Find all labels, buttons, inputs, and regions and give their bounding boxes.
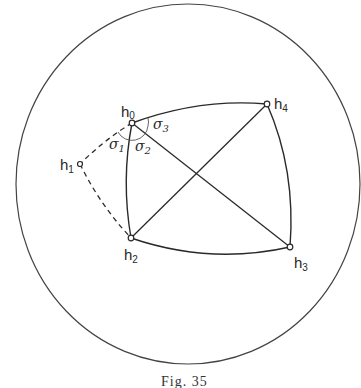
label-sigma2: σ2 <box>135 138 151 156</box>
edge-h1-h2-dashed <box>80 164 131 238</box>
angle-arc-h0-upper <box>148 118 149 126</box>
diagonal-h2-h4 <box>131 104 267 238</box>
vertex-h3 <box>287 244 293 250</box>
label-h0: h0 <box>121 103 135 121</box>
label-h2: h2 <box>124 246 138 265</box>
label-h4: h4 <box>274 95 288 114</box>
label-sigma3: σ3 <box>153 116 169 134</box>
label-h1: h1 <box>60 156 74 175</box>
vertex-h0 <box>129 120 135 126</box>
boundary-circle <box>16 4 360 364</box>
figure-caption: Fig. 35 <box>161 374 208 388</box>
vertex-h1 <box>78 162 83 167</box>
label-sigma1: σ1 <box>109 136 125 154</box>
label-h3: h3 <box>294 254 308 273</box>
hyperbolic-diagram: h0 h1 h2 h3 h4 σ1 σ2 σ3 Fig. 35 <box>0 0 361 388</box>
edge-h4-h3 <box>267 104 291 247</box>
vertex-h2 <box>128 235 134 241</box>
edge-h3-h2 <box>131 238 290 254</box>
vertex-h4 <box>264 101 270 107</box>
diagonal-h0-h3 <box>132 123 290 247</box>
